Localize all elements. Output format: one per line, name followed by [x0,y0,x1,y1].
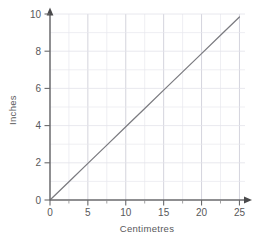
x-axis-ticks [50,200,239,206]
y-tick-label-10: 10 [30,9,42,20]
y-axis [47,8,54,201]
y-tick-label-6: 6 [35,83,41,94]
y-axis-title: Inches [7,95,18,125]
y-axis-tick-labels: 0 2 4 6 8 10 [30,9,42,206]
x-tick-label-5: 5 [85,207,91,218]
x-tick-label-10: 10 [120,207,132,218]
x-tick-label-20: 20 [196,207,208,218]
y-tick-label-0: 0 [35,195,41,206]
x-tick-label-0: 0 [47,207,53,218]
conversion-chart: 0 2 4 6 8 10 0 5 10 15 20 25 Centimetres… [0,0,258,235]
x-axis-title: Centimetres [120,223,175,234]
y-axis-ticks [45,14,51,200]
x-axis-tick-labels: 0 5 10 15 20 25 [47,207,245,218]
x-axis-arrow-icon [244,197,252,204]
y-tick-label-4: 4 [35,120,41,131]
chart-canvas: 0 2 4 6 8 10 0 5 10 15 20 25 Centimetres… [0,0,258,235]
y-tick-label-2: 2 [35,157,41,168]
x-tick-label-25: 25 [234,207,246,218]
x-axis [50,197,252,204]
x-tick-label-15: 15 [158,207,170,218]
y-tick-label-8: 8 [35,46,41,57]
